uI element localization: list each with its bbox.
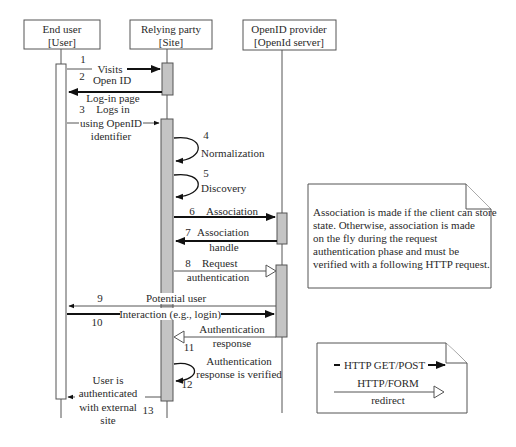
message-number: 1 <box>80 53 86 65</box>
message-label: User is <box>93 374 124 386</box>
activation-relying-party-2 <box>161 119 173 401</box>
message-label: response is verified <box>196 368 282 380</box>
message-number: 3 <box>79 103 85 115</box>
participant-end-user: End user [User] <box>24 20 100 49</box>
message-number: 2 <box>79 70 85 82</box>
participant-name: OpenID provider <box>251 23 327 35</box>
message-label: using OpenID <box>80 117 142 129</box>
legend-label: HTTP GET/POST <box>344 359 425 371</box>
message-label: Authentication <box>199 323 265 335</box>
message-label: Logs in <box>96 103 130 115</box>
participant-role: [Site] <box>159 36 183 48</box>
message-label: Interaction (e.g., login) <box>119 308 221 321</box>
message-label: identifier <box>91 130 132 142</box>
message-number: 5 <box>203 167 209 179</box>
participant-name: End user <box>43 23 82 35</box>
note-line: authentication phase and must be <box>313 245 459 257</box>
participant-openid-provider: OpenID provider [OpenId server] <box>243 20 336 50</box>
message-label: Association <box>206 205 258 217</box>
message-11-authentication-response: Authentication response 11 <box>174 323 276 353</box>
message-12-response-verified: Authentication response is verified 12 <box>174 355 282 390</box>
participant-name: Relying party <box>141 23 202 35</box>
activation-provider-1 <box>277 213 287 244</box>
message-9-potential-user: 9 Potential user <box>69 292 276 306</box>
message-number: 4 <box>203 129 209 141</box>
activation-end-user <box>56 64 66 399</box>
message-number: 10 <box>92 316 104 328</box>
activation-relying-party-1 <box>162 63 173 95</box>
message-number: 12 <box>182 378 193 390</box>
activation-provider-2 <box>276 265 287 337</box>
message-label: Request <box>202 257 237 269</box>
message-label: Authentication <box>206 355 272 367</box>
message-label: Normalization <box>201 147 265 159</box>
message-number: 13 <box>143 404 155 416</box>
message-2-openid-login-page: 2 Open ID Log-in page <box>69 70 162 104</box>
note-line: state. Otherwise, association is made <box>313 219 475 231</box>
legend-label: redirect <box>371 394 405 406</box>
message-6-association: 6 Association <box>174 205 275 217</box>
note-line: Association is made if the client can st… <box>313 206 497 218</box>
message-13-user-authenticated: User is authenticated with external site… <box>68 374 161 426</box>
message-number: 6 <box>189 205 195 217</box>
legend-label: HTTP/FORM <box>357 377 419 389</box>
message-label: response <box>213 337 252 349</box>
message-label: Potential user <box>146 292 207 304</box>
message-number: 7 <box>185 226 191 238</box>
message-label: site <box>100 414 115 426</box>
association-note: Association is made if the client can st… <box>308 184 497 288</box>
message-4-normalization: 4 Normalization <box>174 129 265 161</box>
message-label: authentication <box>187 271 250 283</box>
participant-relying-party: Relying party [Site] <box>130 20 212 49</box>
openid-sequence-diagram: End user [User] Relying party [Site] Ope… <box>0 0 516 447</box>
message-label: Discovery <box>201 182 247 194</box>
message-7-association-handle: 7 Association handle <box>176 226 277 253</box>
message-label: Open ID <box>93 74 131 86</box>
message-label: with external <box>79 401 137 413</box>
message-3-logs-in: 3 Logs in using OpenID identifier <box>67 103 159 142</box>
message-5-discovery: 5 Discovery <box>174 167 247 197</box>
note-line: on the fly during the request <box>313 232 437 244</box>
message-number: 8 <box>185 257 191 269</box>
message-label: handle <box>209 241 238 253</box>
message-number: 9 <box>97 292 103 304</box>
participant-role: [User] <box>48 36 76 48</box>
legend: HTTP GET/POST HTTP/FORM redirect <box>317 343 467 413</box>
message-label: authenticated <box>79 387 138 399</box>
message-number: 11 <box>184 341 195 353</box>
participant-role: [OpenId server] <box>254 36 324 48</box>
note-line: verified with a following HTTP request. <box>313 258 490 270</box>
message-8-request-authentication: 8 Request authentication <box>174 257 276 283</box>
message-label: Association <box>197 226 249 238</box>
